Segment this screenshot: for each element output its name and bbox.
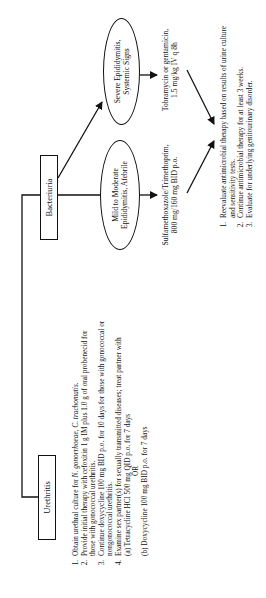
partner-option-b: (b) Doxycycline 100 mg BID p.o. for 7 da… bbox=[141, 318, 150, 556]
urethritis-steps-list: Obtain urethral culture for N. gonorrhoe… bbox=[72, 318, 149, 570]
mild-treatment-line1: Sulfamethoxazole/Trimethoprim, bbox=[161, 135, 170, 255]
urethritis-step-4: Examine sex partner(s) for sexually tran… bbox=[115, 318, 149, 558]
final-steps-list: Reevaluate antimicrobial therapy based o… bbox=[220, 15, 254, 232]
urethritis-step-3: Continue doxycycline 100 mg BID p.o. for… bbox=[98, 318, 115, 558]
bacteriuria-label: Bacteriuria bbox=[44, 179, 54, 217]
mild-treatment-line2: 800 mg/160 mg BID p.o. bbox=[170, 135, 179, 255]
severe-epididymitis-node: Severe Epididymitis, Systemic Signs bbox=[103, 18, 140, 125]
urethritis-node: Urethritis bbox=[38, 455, 56, 540]
organism-names: N. gonorrhoeae, C. trachomatis. bbox=[71, 382, 80, 477]
epididymitis-flowchart: Urethritis Bacteriuria Mild to Moderate … bbox=[0, 0, 266, 598]
urethritis-step-2: Provide initial therapy with cefoxitin 1… bbox=[81, 318, 98, 558]
mild-label-line1: Mild to Moderate bbox=[111, 161, 120, 229]
severe-label-line1: Severe Epididymitis, bbox=[113, 40, 122, 104]
severe-treatment: Tobramycin or gentamicin, 1.5 mg/kg IV q… bbox=[161, 10, 179, 130]
mild-treatment: Sulfamethoxazole/Trimethoprim, 800 mg/16… bbox=[161, 135, 179, 255]
mild-label-line2: Epididymitis, Afebrile bbox=[120, 161, 129, 229]
final-step-3: Evaluate for underlying genitourinary di… bbox=[246, 15, 255, 220]
bacteriuria-node: Bacteriuria bbox=[40, 155, 58, 240]
severe-treatment-line1: Tobramycin or gentamicin, bbox=[161, 10, 170, 130]
mild-epididymitis-node: Mild to Moderate Epididymitis, Afebrile bbox=[100, 140, 140, 250]
severe-label-line2: Systemic Signs bbox=[122, 40, 131, 104]
severe-treatment-line2: 1.5 mg/kg IV q 8h bbox=[170, 10, 179, 130]
urethritis-label: Urethritis bbox=[42, 481, 52, 514]
final-step-1: Reevaluate antimicrobial therapy based o… bbox=[220, 15, 237, 220]
partner-option-a: (a) Tetracycline HCl 500 mg QID p.o. for… bbox=[124, 318, 133, 556]
